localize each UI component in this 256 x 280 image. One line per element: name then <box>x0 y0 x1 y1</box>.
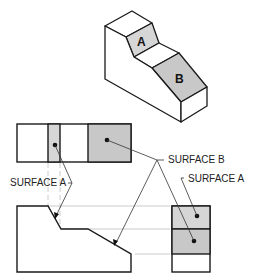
front-view <box>17 206 131 272</box>
top-view-surface-b <box>88 124 131 162</box>
iso-label-a: A <box>137 35 146 49</box>
side-view-surface-b <box>172 229 210 254</box>
iso-label-b: B <box>175 72 184 86</box>
side-view <box>172 206 210 272</box>
isometric-view: A B <box>105 11 207 122</box>
multiview-diagram: A B <box>0 0 256 280</box>
leader-b-front <box>116 160 157 243</box>
diagram-svg: A B <box>0 0 256 280</box>
callout-surface-a-left: SURFACE A <box>10 177 66 188</box>
side-view-surface-a <box>172 206 210 229</box>
callout-surface-a-right: SURFACE A <box>188 173 244 184</box>
callout-surface-b: SURFACE B <box>168 154 225 165</box>
